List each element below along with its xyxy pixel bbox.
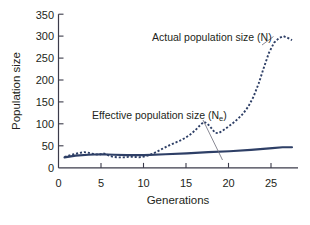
y-axis-tick-labels: 350 300 250 200 150 100 50 0 [36, 9, 54, 174]
y-tick-label-300: 300 [36, 30, 54, 42]
annotation-effective-population-size: Effective population size (Ne) [92, 109, 227, 123]
x-tick-label-20: 20 [222, 177, 234, 189]
y-tick-label-50: 50 [42, 140, 54, 152]
leader-line-effective [203, 120, 223, 160]
y-tick-label-350: 350 [36, 9, 54, 21]
series-actual-population-size [64, 36, 292, 157]
x-tick-label-5: 5 [98, 177, 104, 189]
population-size-line-chart: 350 300 250 200 150 100 50 0 0 5 10 15 2… [0, 0, 310, 225]
series-effective-population-size [64, 147, 292, 157]
x-axis-tickmarks [101, 163, 271, 168]
y-tick-label-0: 0 [48, 162, 54, 174]
chart-figure: 350 300 250 200 150 100 50 0 0 5 10 15 2… [0, 0, 310, 225]
x-tick-label-15: 15 [180, 177, 192, 189]
y-tick-label-250: 250 [36, 52, 54, 64]
x-axis-tick-labels: 0 5 10 15 20 25 [55, 177, 277, 189]
y-tick-label-200: 200 [36, 74, 54, 86]
x-tick-label-10: 10 [137, 177, 149, 189]
x-tick-label-25: 25 [265, 177, 277, 189]
annotation-actual-population-size: Actual population size (N) [152, 31, 272, 43]
x-tick-label-0: 0 [55, 177, 61, 189]
y-axis-tickmarks [59, 14, 64, 146]
y-axis-title: Population size [10, 52, 22, 130]
x-axis-title: Generations [147, 194, 210, 206]
y-tick-label-150: 150 [36, 96, 54, 108]
y-tick-label-100: 100 [36, 118, 54, 130]
